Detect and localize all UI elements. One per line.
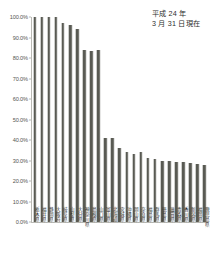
bar-slot: [187, 17, 194, 222]
y-axis-tick-label: 70.0%: [13, 76, 28, 82]
bar: [97, 50, 100, 222]
bar-slot: [52, 17, 59, 222]
y-axis-tick-label: 0.0%: [16, 219, 28, 225]
x-axis-tick-label: 青森県: [173, 207, 180, 222]
x-axis-tick-label: 奈良県: [137, 207, 144, 222]
x-axis-tick-label: 大分県: [74, 207, 81, 222]
bar-slot: [194, 17, 201, 222]
bar-slot: [45, 17, 52, 222]
bar: [40, 17, 43, 222]
bar-slot: [151, 17, 158, 222]
bar-slot: [59, 17, 66, 222]
x-axis-tick-label: 沖縄県: [123, 207, 130, 222]
y-axis-tick-label: 60.0%: [13, 96, 28, 102]
x-axis-tick-label: 徳島県: [158, 207, 165, 222]
bar: [90, 51, 93, 222]
bar: [69, 25, 72, 222]
x-axis-tick-label: 岡山県: [130, 207, 137, 222]
x-axis-tick-label: 岐阜県: [59, 207, 66, 222]
y-axis-tick-label: 40.0%: [13, 137, 28, 143]
bar: [54, 17, 57, 222]
bar-slot: [38, 17, 45, 222]
bar-slot: [116, 17, 123, 222]
bar: [76, 29, 79, 222]
bar-slot: [95, 17, 102, 222]
bar-slot: [102, 17, 109, 222]
bar-slot: [201, 17, 208, 222]
bar-slot: [158, 17, 165, 222]
x-axis-tick-label: 鹿児島県: [201, 207, 208, 227]
bar-slot: [166, 17, 173, 222]
x-axis-tick-label: 滋賀県: [166, 207, 173, 222]
x-axis-tick-label: 富山県: [102, 207, 109, 222]
bar-slot: [73, 17, 80, 222]
bar-slot: [137, 17, 144, 222]
bar-slot: [81, 17, 88, 222]
x-axis-tick-label: 福島県: [144, 207, 151, 222]
x-axis-tick-label: 新潟県: [187, 207, 194, 222]
bar-series: [31, 17, 208, 222]
x-axis-tick-label: 栃木県: [31, 207, 38, 222]
y-axis-tick-label: 10.0%: [13, 199, 28, 205]
x-axis-tick-label: 群馬県: [151, 207, 158, 222]
x-axis-tick-label: 香川県: [180, 207, 187, 222]
x-axis-tick-label: 宮城県: [116, 207, 123, 222]
y-axis-tick-label: 20.0%: [13, 178, 28, 184]
x-axis-tick-label: 福井県: [38, 207, 45, 222]
y-axis-tick-label: 100.0%: [10, 14, 28, 20]
x-axis-tick-label: 神奈川県: [81, 207, 88, 227]
x-axis-tick-label: 大阪府: [52, 207, 59, 222]
bar-slot: [109, 17, 116, 222]
bar-chart: 平成 24 年 3 月 31 日現在 100.0%90.0%80.0%70.0%…: [0, 0, 210, 278]
bar: [33, 17, 36, 222]
y-axis-tick-label: 50.0%: [13, 117, 28, 123]
x-axis-tick-label: 山口県: [95, 207, 102, 222]
bar-slot: [123, 17, 130, 222]
bar-slot: [144, 17, 151, 222]
bar-slot: [130, 17, 137, 222]
x-axis-tick-label: 北海道: [109, 207, 116, 222]
x-axis-tick-label: 福岡県: [194, 207, 201, 222]
plot-area: 100.0%90.0%80.0%70.0%60.0%50.0%40.0%30.0…: [31, 17, 208, 222]
bar: [83, 50, 86, 222]
bar-slot: [66, 17, 73, 222]
x-axis-tick-label: 島根県: [88, 207, 95, 222]
y-axis-tick-label: 90.0%: [13, 35, 28, 41]
bar-slot: [31, 17, 38, 222]
bar: [47, 17, 50, 222]
bar-slot: [180, 17, 187, 222]
bar: [62, 23, 65, 222]
y-axis-tick-label: 80.0%: [13, 55, 28, 61]
x-axis-line: [31, 222, 208, 223]
bar-slot: [173, 17, 180, 222]
x-axis-tick-label: 静岡県: [45, 207, 52, 222]
y-axis-tick-label: 30.0%: [13, 158, 28, 164]
bar-slot: [88, 17, 95, 222]
x-axis-tick-label: 山梨県: [66, 207, 73, 222]
